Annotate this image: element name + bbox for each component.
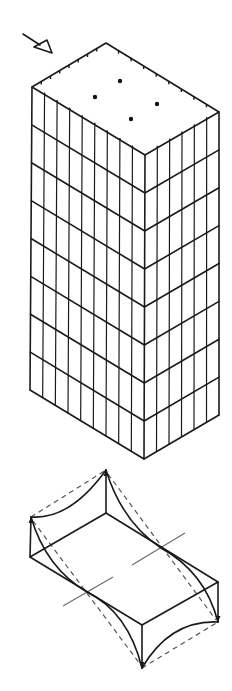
arrow-shaft (23, 34, 40, 45)
floor-line (31, 314, 220, 383)
floor-line (31, 239, 219, 308)
deformed-slab-diagram (29, 470, 221, 668)
original-edge-dashed (31, 470, 106, 517)
core-column-dot (93, 95, 97, 99)
tower-roof (32, 43, 219, 155)
tower-isometric (30, 43, 219, 459)
neutral-axis-line (132, 533, 185, 565)
wind-arrow-icon (23, 34, 52, 53)
core-column-dot (129, 117, 133, 121)
floor-line (32, 125, 219, 193)
structural-diagram (0, 0, 232, 691)
core-column-dot (155, 102, 159, 106)
roof-outline (32, 43, 219, 155)
floor-line (32, 163, 220, 231)
floor-line (31, 201, 219, 269)
diagram-canvas (0, 0, 232, 691)
floor-line (30, 352, 219, 421)
floor-line (31, 276, 219, 345)
cusp-arrow-icon (216, 616, 221, 622)
core-column-dot (118, 79, 122, 83)
floor-line (30, 390, 219, 459)
